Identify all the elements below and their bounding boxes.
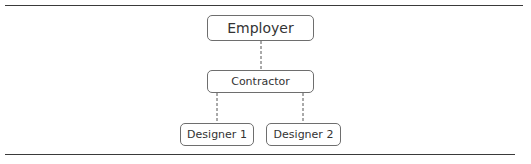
bottom-rule [5, 154, 515, 155]
designer2-node: Designer 2 [266, 123, 341, 146]
designer2-label: Designer 2 [274, 128, 334, 141]
contractor-label: Contractor [231, 75, 290, 88]
employer-node: Employer [207, 15, 314, 41]
contractor-node: Contractor [207, 70, 314, 93]
employer-label: Employer [227, 20, 293, 36]
designer1-node: Designer 1 [180, 123, 254, 146]
designer1-label: Designer 1 [187, 128, 247, 141]
